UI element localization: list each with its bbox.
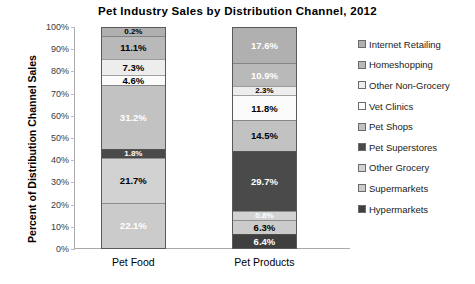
segment-value-label: 6.4% [254, 237, 276, 247]
segment-value-label: 17.6% [251, 41, 278, 51]
y-axis-tick-mark [71, 160, 75, 161]
legend-item[interactable]: Homeshopping [358, 55, 475, 76]
y-axis-tick-mark [71, 116, 75, 117]
legend-item[interactable]: Other Grocery [358, 158, 475, 179]
legend-item-label: Internet Retailing [369, 39, 441, 50]
y-axis-tick-mark [71, 227, 75, 228]
segment-value-label: 6.3% [254, 223, 276, 233]
segment-value-label: 2.3% [255, 87, 273, 95]
y-axis-tick-label: 0% [29, 244, 69, 254]
bar-segment[interactable]: 31.2% [102, 85, 165, 149]
bar-segment[interactable]: 0.2% [102, 28, 165, 36]
segment-value-label: 22.1% [120, 221, 147, 231]
legend-item-label: Other Grocery [369, 162, 429, 173]
segment-value-label: 10.9% [251, 71, 278, 81]
bar-segment[interactable]: 2.3% [233, 86, 296, 95]
bar-segment[interactable]: 1.8% [102, 149, 165, 158]
x-axis-category-label: Pet Products [232, 256, 297, 268]
y-axis-tick-label: 40% [29, 155, 69, 165]
segment-value-label: 0.2% [124, 28, 142, 36]
segment-value-label: 29.7% [251, 177, 278, 187]
segment-value-label: 11.8% [251, 104, 277, 114]
legend-swatch-icon [358, 81, 366, 89]
bar-column: 17.6%10.9%2.3%11.8%14.5%29.7%0.8%6.3%6.4… [232, 27, 297, 249]
legend-item-label: Hypermarkets [369, 204, 428, 215]
bar-segment[interactable]: 29.7% [233, 151, 296, 212]
y-axis-tick-label: 100% [29, 22, 69, 32]
bar-segment[interactable]: 11.1% [102, 36, 165, 59]
chart-title: Pet Industry Sales by Distribution Chann… [0, 5, 475, 17]
y-axis-tick-label: 90% [29, 44, 69, 54]
y-axis-tick-mark [71, 94, 75, 95]
segment-value-label: 0.8% [255, 212, 273, 220]
legend-swatch-icon [358, 184, 366, 192]
segment-value-label: 4.6% [123, 76, 145, 86]
legend-item[interactable]: Pet Superstores [358, 137, 475, 158]
y-axis-tick-label: 30% [29, 177, 69, 187]
y-axis-tick-mark [71, 27, 75, 28]
legend-swatch-icon [358, 40, 366, 48]
y-axis-tick-mark [71, 71, 75, 72]
segment-value-label: 11.1% [120, 43, 146, 53]
y-axis-tick-mark [71, 49, 75, 50]
bar-segment[interactable]: 10.9% [233, 63, 296, 86]
y-axis-tick-label: 60% [29, 111, 69, 121]
bar-segment[interactable]: 22.1% [102, 203, 165, 248]
y-axis-tick-mark [71, 138, 75, 139]
legend: Internet RetailingHomeshoppingOther Non-… [358, 34, 475, 219]
segment-value-label: 31.2% [120, 113, 147, 123]
bar-segment[interactable]: 21.7% [102, 158, 165, 203]
chart-container: Pet Industry Sales by Distribution Chann… [0, 0, 475, 284]
legend-item[interactable]: Other Non-Grocery [358, 75, 475, 96]
segment-value-label: 1.8% [124, 150, 142, 158]
legend-item[interactable]: Supermarkets [358, 178, 475, 199]
bar-column: 0.2%11.1%7.3%4.6%31.2%1.8%21.7%22.1%Pet … [101, 27, 166, 249]
y-axis-tick-mark [71, 249, 75, 250]
legend-swatch-icon [358, 123, 366, 131]
y-axis-tick-label: 80% [29, 66, 69, 76]
bar-segment[interactable]: 17.6% [233, 28, 296, 63]
legend-swatch-icon [358, 61, 366, 69]
legend-swatch-icon [358, 164, 366, 172]
segment-value-label: 14.5% [251, 131, 278, 141]
y-axis-tick-mark [71, 205, 75, 206]
legend-item-label: Supermarkets [369, 183, 428, 194]
y-axis-tick-label: 20% [29, 200, 69, 210]
y-axis-tick-label: 50% [29, 133, 69, 143]
segment-value-label: 7.3% [123, 63, 145, 73]
legend-item-label: Pet Superstores [369, 142, 437, 153]
y-axis-tick-label: 70% [29, 89, 69, 99]
legend-swatch-icon [358, 205, 366, 213]
legend-item-label: Vet Clinics [369, 101, 413, 112]
segment-value-label: 21.7% [120, 176, 147, 186]
bar-segment[interactable]: 7.3% [102, 59, 165, 75]
legend-item[interactable]: Pet Shops [358, 116, 475, 137]
bar-segment[interactable]: 14.5% [233, 120, 296, 150]
legend-item[interactable]: Internet Retailing [358, 34, 475, 55]
legend-item[interactable]: Vet Clinics [358, 96, 475, 117]
bar-segment[interactable]: 4.6% [102, 75, 165, 86]
bar-segment[interactable]: 11.8% [233, 95, 296, 120]
legend-swatch-icon [358, 102, 366, 110]
stacked-bar[interactable]: 0.2%11.1%7.3%4.6%31.2%1.8%21.7%22.1% [101, 27, 166, 249]
stacked-bar[interactable]: 17.6%10.9%2.3%11.8%14.5%29.7%0.8%6.3%6.4… [232, 27, 297, 249]
plot-area: 100%90%80%70%60%50%40%30%20%10%0% 0.2%11… [74, 27, 350, 249]
y-axis-tick-mark [71, 182, 75, 183]
legend-swatch-icon [358, 143, 366, 151]
legend-item-label: Homeshopping [369, 59, 433, 70]
legend-item[interactable]: Hypermarkets [358, 199, 475, 220]
x-axis-category-label: Pet Food [101, 256, 166, 268]
bar-segment[interactable]: 6.3% [233, 220, 296, 234]
legend-item-label: Other Non-Grocery [369, 80, 450, 91]
y-axis-tick-label: 10% [29, 222, 69, 232]
legend-item-label: Pet Shops [369, 121, 413, 132]
bar-segment[interactable]: 0.8% [233, 211, 296, 220]
bar-segment[interactable]: 6.4% [233, 234, 296, 248]
